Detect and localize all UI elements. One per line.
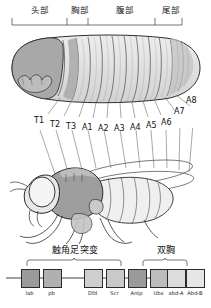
gene-box-Dfd[interactable] (84, 269, 103, 288)
gene-box-abd-A[interactable] (167, 269, 186, 288)
gene-box-pb[interactable] (43, 269, 62, 288)
gene-label-pb: pb (39, 290, 64, 296)
gene-box-lab[interactable] (21, 269, 40, 288)
segment-label-T1: T1 (34, 116, 44, 125)
segment-label-A6: A6 (161, 118, 172, 127)
figure-root: 头部 胸部 腹部 尾部 (0, 0, 211, 308)
region-label-head: 头部 (18, 5, 62, 15)
drosophila-adult-fly-drawing (0, 148, 211, 244)
cluster-brackets (0, 258, 211, 268)
region-label-thorax: 胸部 (62, 5, 98, 15)
gene-box-Antp[interactable] (128, 269, 147, 288)
region-label-tail: 尾部 (151, 5, 191, 15)
cluster-label-bithorax: 双胸 (140, 245, 192, 256)
gene-box-Abd-B[interactable] (186, 269, 205, 288)
segment-label-A8: A8 (186, 96, 197, 105)
region-label-abdomen: 腹部 (101, 5, 149, 15)
gene-label-Abd-B: Abd-B (182, 290, 208, 296)
gene-box-Scr[interactable] (106, 269, 125, 288)
cluster-label-antennapedia: 触角足突变 (28, 245, 122, 256)
segment-label-A7: A7 (174, 107, 185, 116)
